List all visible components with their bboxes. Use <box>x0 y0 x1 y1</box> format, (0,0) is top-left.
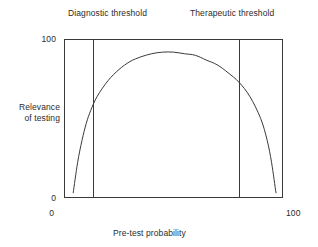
plot-area <box>0 0 318 247</box>
plot-frame-border <box>65 40 283 198</box>
relevance-curve <box>73 52 276 193</box>
relevance-of-testing-figure: Diagnostic threshold Therapeutic thresho… <box>0 0 318 247</box>
